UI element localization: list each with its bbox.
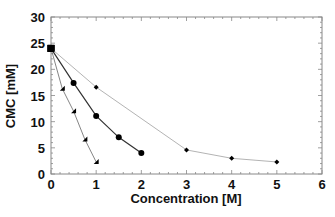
series-circle [48,45,145,156]
data-point-triangle [82,136,87,141]
data-point-diamond [229,156,234,161]
y-tick-label: 15 [31,89,45,104]
x-tick-labels: 0123456 [47,177,325,192]
x-tick-label: 2 [138,177,145,192]
y-tick-label: 0 [38,167,45,182]
y-tick-label: 5 [38,141,45,156]
x-tick-label: 4 [228,177,236,192]
y-tick-labels: 051015202530 [31,10,45,182]
data-point-triangle [94,159,99,164]
data-point-diamond [274,159,279,164]
series-line [51,48,277,162]
data-point-circle [138,150,144,156]
y-axis-title: CMC [mM] [3,64,18,128]
y-tick-label: 10 [31,115,45,130]
y-tick-label: 20 [31,62,45,77]
x-tick-label: 1 [93,177,100,192]
data-point-circle [116,134,122,140]
y-tick-label: 30 [31,10,45,25]
series-triangle [48,45,99,164]
data-point-circle [71,80,77,86]
chart: 0123456 051015202530 Concentration [M] C… [0,0,335,217]
y-tick-label: 25 [31,36,45,51]
x-tick-label: 3 [183,177,190,192]
data-point-triangle [71,108,76,113]
start-marker-square [48,45,55,52]
x-tick-label: 5 [273,177,280,192]
series-diamond [48,45,280,165]
x-tick-label: 6 [318,177,325,192]
x-tick-label: 0 [47,177,54,192]
series-group [48,45,280,165]
data-point-circle [93,113,99,119]
series-line [51,48,141,153]
x-axis-title: Concentration [M] [130,191,241,206]
